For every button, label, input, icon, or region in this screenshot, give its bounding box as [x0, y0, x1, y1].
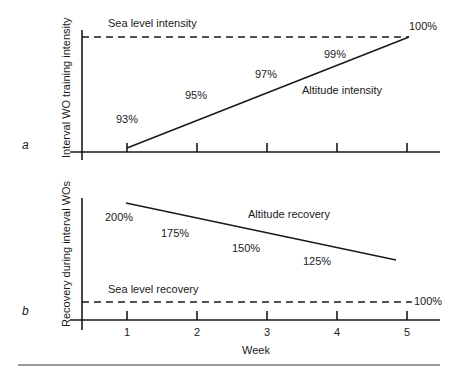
data-label-a-93: 93%	[116, 113, 138, 125]
sea-level-intensity-value: 100%	[409, 20, 437, 32]
data-label-a-95: 95%	[185, 89, 207, 101]
x-axis-title: Week	[242, 344, 270, 356]
sea-level-intensity-label: Sea level intensity	[108, 17, 197, 29]
sea-level-recovery-value: 100%	[414, 295, 442, 307]
panel-b-y-axis-label: Recovery during interval WOs	[60, 181, 72, 327]
figure-container: a Interval WO training intensity Sea lev…	[0, 0, 458, 377]
data-label-a-99: 99%	[324, 48, 346, 60]
data-label-b-125: 125%	[303, 255, 331, 267]
data-label-b-150: 150%	[232, 242, 260, 254]
panel-letter-b: b	[22, 304, 29, 318]
panel-a-y-axis-label: Interval WO training intensity	[60, 17, 72, 158]
x-tick-label-5: 5	[397, 326, 417, 338]
x-tick-label-4: 4	[327, 326, 347, 338]
x-tick-label-1: 1	[117, 326, 137, 338]
panel-letter-a: a	[22, 138, 29, 152]
data-label-b-200: 200%	[105, 211, 133, 223]
x-tick-label-3: 3	[257, 326, 277, 338]
data-label-b-175: 175%	[161, 227, 189, 239]
altitude-recovery-label: Altitude recovery	[248, 208, 330, 220]
data-label-a-97: 97%	[255, 68, 277, 80]
sea-level-recovery-label: Sea level recovery	[108, 283, 199, 295]
altitude-intensity-label: Altitude intensity	[302, 84, 382, 96]
panel-a-axes	[70, 30, 440, 160]
x-tick-label-2: 2	[187, 326, 207, 338]
